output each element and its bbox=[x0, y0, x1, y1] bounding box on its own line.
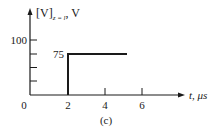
annotation-75: 75 bbox=[53, 48, 65, 60]
x-tick-label-2: 2 bbox=[65, 99, 71, 111]
figure-caption: (c) bbox=[100, 114, 113, 127]
step-series-line bbox=[68, 54, 127, 95]
y-tick-label-100: 100 bbox=[11, 34, 28, 46]
y-axis-arrow-icon bbox=[28, 8, 33, 15]
x-axis-label: t, μs bbox=[189, 89, 207, 101]
step-voltage-chart: [V]z = l, V 100 75 0 2 4 6 t, μs (c) bbox=[0, 0, 219, 133]
x-tick-label-4: 4 bbox=[102, 99, 108, 111]
x-axis-arrow-icon bbox=[178, 93, 185, 98]
x-tick-label-6: 6 bbox=[139, 99, 145, 111]
x-tick-label-0: 0 bbox=[21, 99, 27, 111]
y-axis-label: [V]z = l, V bbox=[36, 6, 80, 22]
